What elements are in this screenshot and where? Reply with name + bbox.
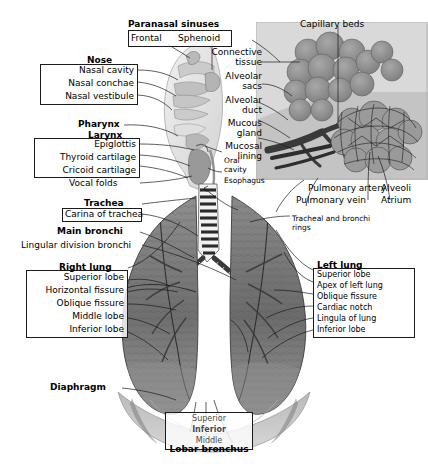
label-horizontal-fissure: Horizontal fissure: [24, 286, 124, 295]
label-right-inferior-lobe: Inferior lobe: [24, 325, 124, 334]
label-epiglottis: Epiglottis: [32, 140, 136, 149]
label-right-superior-lobe: Superior lobe: [24, 273, 124, 282]
nose-header: Nose: [87, 56, 112, 65]
label-carina-of-trachea: Carina of trachea: [65, 210, 143, 219]
label-alveolar-duct-line2: duct: [206, 106, 262, 115]
label-pulmonary-vein: Pulmonary vein: [296, 196, 366, 205]
label-capillary-beds: Capillary beds: [300, 20, 364, 29]
label-diaphragm: Diaphragm: [50, 383, 106, 392]
left-main-bronchus-art: [214, 258, 252, 290]
label-oral-cavity-line2: cavity: [224, 166, 247, 174]
label-main-bronchi: Main bronchi: [57, 227, 123, 236]
label-pulmonary-artery: Pulmonary artery: [308, 184, 386, 193]
label-alveolar-sacs-line1: Alveolar: [206, 72, 262, 81]
label-vocal-folds: Vocal folds: [69, 179, 117, 188]
label-lobar-inferior: Inferior: [165, 426, 253, 434]
label-left-superior-lobe: Superior lobe: [317, 271, 371, 279]
label-left-oblique-fissure: Oblique fissure: [317, 293, 377, 301]
label-thyroid-cartilage: Thyroid cartilage: [32, 153, 136, 162]
label-mucous-gland-line2: gland: [206, 129, 262, 138]
label-alveolar-duct-line1: Alveolar: [206, 96, 262, 105]
label-lingular-division-bronchi: Lingular division bronchi: [21, 241, 131, 250]
label-oral-cavity-line1: Oral: [224, 157, 240, 165]
label-sphenoid: Sphenoid: [178, 34, 220, 43]
label-alveoli: Alveoli: [381, 184, 411, 193]
label-right-oblique-fissure: Oblique fissure: [24, 299, 124, 308]
label-lobar-superior: Superior: [165, 415, 253, 423]
label-atrium: Atrium: [381, 196, 411, 205]
frontal-sinus-art: [186, 52, 200, 65]
trachea-header: Trachea: [84, 199, 124, 208]
label-frontal: Frontal: [131, 34, 162, 43]
label-left-inferior-lobe: Inferior lobe: [317, 326, 366, 334]
right-main-bronchus-art: [168, 258, 203, 286]
label-middle-lobe: Middle lobe: [24, 312, 124, 321]
label-esophagus: Esophagus: [224, 177, 265, 185]
label-cardiac-notch: Cardiac notch: [317, 304, 372, 312]
label-apex-of-left-lung: Apex of left lung: [317, 282, 383, 290]
label-tracheal-rings-line1: Tracheal and bronchi: [292, 215, 370, 223]
label-tracheal-rings-line2: rings: [292, 224, 311, 232]
respiratory-diagram: Paranasal sinuses Frontal Sphenoid Nose …: [0, 0, 428, 474]
left-lung-header: Left lung: [317, 261, 363, 270]
label-connective-tissue-line1: Connective: [206, 48, 262, 57]
right-lung-header: Right lung: [59, 263, 112, 272]
label-mucous-gland-line1: Mucous: [206, 119, 262, 128]
label-connective-tissue-line2: tissue: [206, 58, 262, 67]
label-cricoid-cartilage: Cricoid cartilage: [32, 166, 136, 175]
label-nasal-conchae: Nasal conchae: [38, 79, 134, 88]
label-nasal-cavity: Nasal cavity: [38, 66, 134, 75]
alveoli-inset-art: [256, 22, 428, 180]
trachea-art: [168, 184, 252, 290]
label-nasal-vestibule: Nasal vestibule: [38, 92, 134, 101]
lobar-bronchus-header: Lobar bronchus: [159, 445, 259, 454]
paranasal-sinuses-header: Paranasal sinuses: [128, 20, 219, 29]
label-pharynx: Pharynx: [78, 120, 120, 129]
label-lingula-of-lung: Lingula of lung: [317, 315, 376, 323]
label-mucosal-lining-line1: Mucosal: [206, 142, 262, 151]
label-alveolar-sacs-line2: sacs: [206, 82, 262, 91]
